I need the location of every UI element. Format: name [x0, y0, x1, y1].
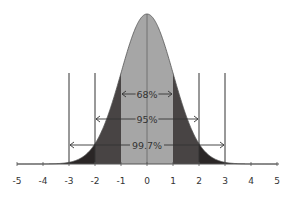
x-tick-label: 1 — [170, 176, 176, 186]
percent-label: 68% — [136, 89, 157, 100]
x-tick-label: -5 — [13, 176, 22, 186]
percent-label: 95% — [136, 114, 157, 125]
x-tick-label: -3 — [65, 176, 74, 186]
normal-distribution-chart: -5-4-3-2-1012345 68%95%99.7% — [0, 0, 298, 200]
percent-arrows: 68%95%99.7% — [70, 89, 224, 151]
x-tick-label: 2 — [196, 176, 202, 186]
x-tick-label: 0 — [144, 176, 150, 186]
x-tick-label: -2 — [91, 176, 100, 186]
x-axis-ticks: -5-4-3-2-1012345 — [13, 162, 280, 186]
x-tick-label: -1 — [117, 176, 126, 186]
percent-label: 99.7% — [132, 140, 162, 151]
x-tick-label: -4 — [39, 176, 48, 186]
x-tick-label: 4 — [248, 176, 254, 186]
x-tick-label: 5 — [274, 176, 280, 186]
x-tick-label: 3 — [222, 176, 228, 186]
